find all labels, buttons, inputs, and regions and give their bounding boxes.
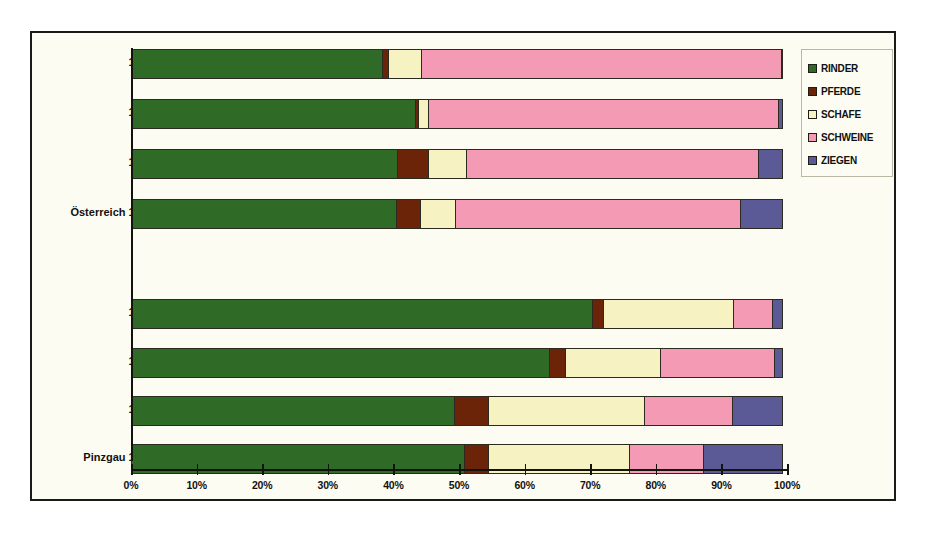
x-axis-tick [590,464,592,475]
legend-swatch-icon [808,64,817,73]
stacked-bar [131,199,787,229]
x-axis-tick-label: 100% [774,479,800,491]
bar-segment-schweine [644,396,734,426]
bar-segment-pferde [454,396,489,426]
bar-segment-pferde [549,348,566,378]
x-axis-tick-label: 20% [252,479,272,491]
x-axis-tick-label: 70% [580,479,600,491]
bar-segment-ziegen [740,199,783,229]
x-axis-tick [525,464,527,475]
bar-segment-ziegen [732,396,783,426]
bar-segment-ziegen [774,348,783,378]
bar-segment-schafe [603,299,734,329]
stacked-bar [131,49,787,79]
x-axis-tick-label: 30% [318,479,338,491]
legend-item-label: ZIEGEN [821,155,857,166]
stacked-bar [131,299,787,329]
bar-segment-rinder [131,149,398,179]
legend-item-pferde[interactable]: PFERDE [808,81,892,102]
legend-swatch-icon [808,110,817,119]
bar-segment-ziegen [781,49,783,79]
legend-item-ziegen[interactable]: ZIEGEN [808,150,892,171]
chart-frame: 199119711951Österreich 1938199119711951P… [30,31,896,501]
bar-segment-rinder [131,99,416,129]
x-axis-tick-label: 80% [646,479,666,491]
bar-segment-rinder [131,49,383,79]
bar-segment-schweine [466,149,759,179]
stacked-bar [131,348,787,378]
bar-segment-pferde [397,149,429,179]
bar-segment-rinder [131,396,455,426]
legend-swatch-icon [808,87,817,96]
bar-segment-schweine [421,49,782,79]
legend-item-schafe[interactable]: SCHAFE [808,104,892,125]
legend-item-label: SCHWEINE [821,132,873,143]
legend-item-label: PFERDE [821,86,860,97]
x-axis-tick [459,464,461,475]
bar-segment-schafe [565,348,661,378]
legend-item-schweine[interactable]: SCHWEINE [808,127,892,148]
x-axis-tick-label: 90% [711,479,731,491]
chart-page: 199119711951Österreich 1938199119711951P… [0,0,926,541]
legend-items: RINDERPFERDESCHAFESCHWEINEZIEGEN [808,58,892,171]
legend-item-label: SCHAFE [821,109,861,120]
bar-segment-ziegen [772,299,783,329]
bar-segment-ziegen [758,149,783,179]
legend-item-rinder[interactable]: RINDER [808,58,892,79]
x-axis-tick [721,464,723,475]
stacked-bar [131,396,787,426]
x-axis-tick [393,464,395,475]
x-axis-tick-label: 0% [124,479,139,491]
bar-segment-schafe [428,149,467,179]
plot-area: 199119711951Österreich 1938199119711951P… [32,33,894,499]
bar-segment-schafe [388,49,422,79]
bar-segment-schweine [455,199,742,229]
stacked-bar [131,149,787,179]
bar-segment-schweine [733,299,773,329]
y-axis-line [131,48,133,461]
x-axis-tick [787,464,789,475]
bar-segment-schweine [428,99,779,129]
legend-swatch-icon [808,156,817,165]
legend: RINDERPFERDESCHAFESCHWEINEZIEGEN [801,49,893,177]
bar-segment-pferde [396,199,421,229]
x-axis-tick-label: 40% [383,479,403,491]
x-axis-tick-label: 50% [449,479,469,491]
x-axis-tick [197,464,199,475]
x-axis-tick [131,464,133,475]
legend-swatch-icon [808,133,817,142]
bar-segment-schweine [660,348,775,378]
bar-segment-ziegen [778,99,783,129]
x-axis-tick-label: 10% [186,479,206,491]
x-axis-tick [262,464,264,475]
x-axis-tick [656,464,658,475]
x-axis-tick [328,464,330,475]
x-axis-tick-label: 60% [514,479,534,491]
stacked-bar [131,99,787,129]
bar-segment-rinder [131,299,593,329]
bar-segment-schafe [488,396,645,426]
legend-item-label: RINDER [821,63,858,74]
bar-segment-rinder [131,199,397,229]
bar-segment-rinder [131,348,550,378]
bar-segment-schafe [420,199,456,229]
